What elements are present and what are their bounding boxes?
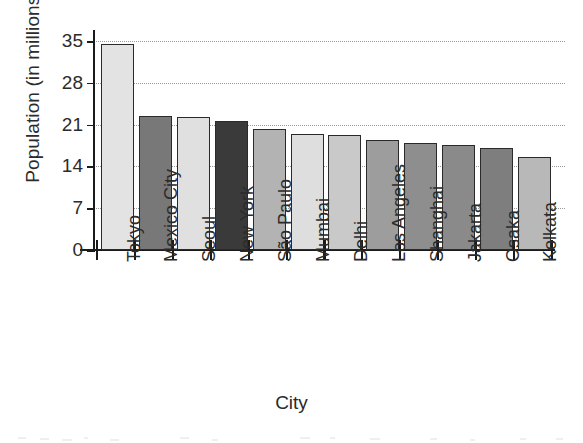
gridline [93, 41, 565, 42]
x-tick-label: Mumbai [314, 198, 332, 262]
scan-artifacts [0, 434, 583, 443]
y-tick-label: 21 [41, 115, 83, 134]
scan-speckle [18, 437, 26, 439]
x-axis-title: City [0, 392, 583, 414]
x-tick-label: Osaka [504, 210, 522, 262]
x-tick-label: Mexico City [162, 169, 180, 262]
x-tick-label: Jakarta [466, 203, 484, 262]
x-tick-label: Tokyo [125, 215, 143, 262]
scan-speckle [330, 437, 335, 439]
y-tick-label: 28 [41, 73, 83, 92]
scan-speckle [370, 438, 380, 440]
x-tick-label: Shanghai [428, 186, 446, 262]
scan-speckle [470, 439, 475, 441]
y-tick-mark [87, 166, 95, 168]
x-tick-label: Los Angeles [390, 164, 408, 262]
x-tick-label: São Paulo [276, 179, 294, 262]
scan-speckle [430, 438, 437, 440]
y-tick-mark [87, 250, 95, 252]
bar-chart-figure: Population (in millions) 0714212835 Toky… [0, 0, 583, 443]
scan-speckle [84, 437, 88, 439]
y-tick-mark [87, 83, 95, 85]
scan-speckle [300, 437, 310, 439]
y-tick-label: 14 [41, 156, 83, 175]
scan-speckle [212, 439, 218, 441]
y-tick-label: 0 [41, 240, 83, 259]
scan-speckle [520, 438, 526, 440]
x-tick-label: Kolkata [541, 202, 559, 262]
y-tick-mark [87, 125, 95, 127]
scan-speckle [556, 438, 563, 440]
x-tick-mark [96, 240, 98, 260]
scan-speckle [62, 439, 72, 441]
y-tick-mark [87, 41, 95, 43]
x-tick-label: Seoul [200, 216, 218, 262]
gridline [93, 83, 565, 84]
scan-speckle [40, 438, 49, 440]
scan-speckle [180, 437, 189, 439]
y-tick-label: 7 [41, 198, 83, 217]
x-tick-label: New York [238, 186, 256, 262]
y-tick-label: 35 [41, 31, 83, 50]
y-tick-mark [87, 208, 95, 210]
scan-speckle [110, 439, 119, 441]
x-tick-label: Delhi [352, 221, 370, 262]
